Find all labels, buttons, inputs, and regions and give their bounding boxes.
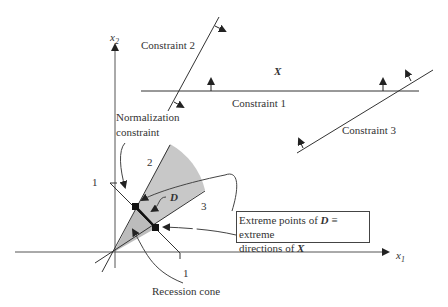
constraint-3-line [297,70,433,153]
extreme-point-1 [132,203,139,210]
feasible-region-label: X [274,66,281,77]
ray-2-label: 2 [147,157,153,168]
diagram-canvas: x2 x1 Constraint 2 Constraint 1 Constrai… [0,0,448,307]
set-D-label: D [170,192,178,203]
constraint-2-label: Constraint 2 [141,40,195,51]
extreme-point-2 [152,224,159,231]
diagram-graphics [0,0,448,307]
normalization-label-line1: Normalization [116,112,180,123]
constraint-1-label: Constraint 1 [232,98,286,109]
x2-intercept-label: 1 [92,177,98,188]
ray-3-label: 3 [201,201,207,212]
normalization-label-line2: constraint [116,127,159,138]
constraint-3-label: Constraint 3 [342,125,396,136]
constraint-2-line [168,17,219,111]
x1-intercept-label: 1 [183,268,189,279]
x1-axis-label: x1 [396,250,405,264]
extreme-points-callout: Extreme points of D ≡ extreme directions… [236,211,370,243]
x2-axis-label: x2 [110,32,119,46]
recession-cone-label: Recession cone [152,286,220,297]
